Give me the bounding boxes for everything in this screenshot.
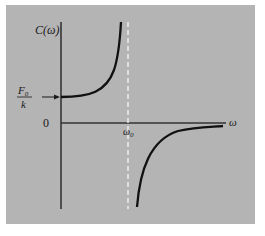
zero-label: 0 (43, 116, 49, 130)
f0-numerator: F0 (17, 84, 29, 98)
arrow-head-icon (54, 95, 60, 100)
curve-right-branch (137, 126, 223, 207)
x-axis-label: ω (229, 116, 237, 128)
f0-denominator: k (21, 98, 27, 110)
y-axis-label: C(ω) (35, 23, 59, 37)
resonance-chart: C(ω) ω 0 ω0 F0 k (0, 0, 265, 236)
curve-left-branch (61, 22, 121, 97)
